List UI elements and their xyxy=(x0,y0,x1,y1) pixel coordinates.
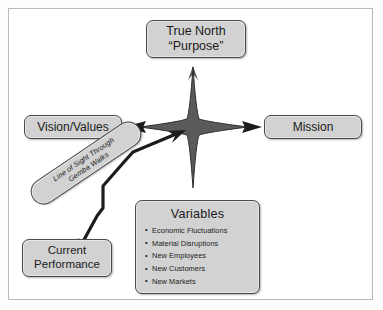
arrow-right-to-mission xyxy=(242,121,262,133)
mission-box[interactable]: Mission xyxy=(264,115,362,139)
current-performance-line-1: Current xyxy=(48,244,86,258)
compass-star-icon xyxy=(140,67,248,188)
mission-label: Mission xyxy=(293,120,334,134)
current-performance-line-2: Performance xyxy=(34,258,100,272)
variables-box[interactable]: Variables Economic Fluctuations Material… xyxy=(135,200,260,294)
true-north-box[interactable]: True North “Purpose” xyxy=(146,20,246,58)
variables-list: Economic Fluctuations Material Disruptio… xyxy=(136,225,227,289)
vision-values-label: Vision/Values xyxy=(37,120,109,134)
list-item: New Markets xyxy=(152,276,227,289)
diagram-canvas: True North “Purpose” Vision/Values Missi… xyxy=(0,0,383,310)
list-item: Material Disruptions xyxy=(152,238,227,251)
true-north-line-2: “Purpose” xyxy=(169,39,224,54)
current-performance-box[interactable]: Current Performance xyxy=(22,239,112,277)
true-north-line-1: True North xyxy=(166,24,225,39)
variables-title: Variables xyxy=(171,207,224,222)
list-item: New Customers xyxy=(152,263,227,276)
list-item: New Employees xyxy=(152,250,227,263)
list-item: Economic Fluctuations xyxy=(152,225,227,238)
